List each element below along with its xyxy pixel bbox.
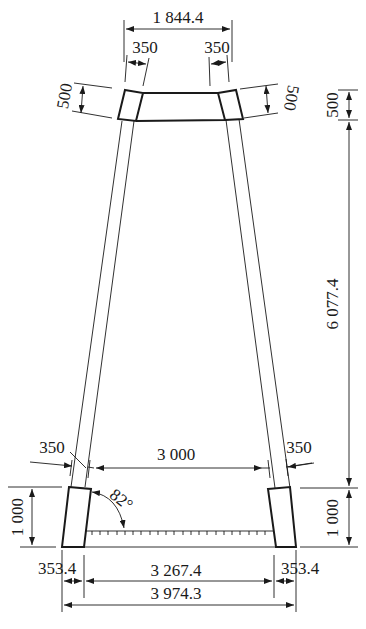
right-leg [226, 119, 290, 488]
left-leg [71, 121, 134, 487]
dim-label-3974: 3 974.3 [151, 584, 202, 603]
dim-label-angle: 82° [106, 485, 136, 515]
dim-label-353-left: 353.4 [38, 559, 77, 578]
dim-left-bottom-height: 1 000 [8, 487, 62, 547]
dim-label-500-right: 500 [323, 92, 342, 118]
dim-label-350-top-left: 350 [132, 38, 158, 57]
dim-label-1000-left: 1 000 [8, 498, 27, 536]
dim-top-right-leg: 350 [204, 38, 230, 86]
dim-label-350-mid-left: 350 [39, 438, 65, 457]
dim-label-353-right: 353.4 [281, 559, 320, 578]
left-foot-block [62, 487, 91, 547]
dim-right-chain: 500 6 077.4 1 000 [300, 90, 358, 547]
dim-top-right-cap: 500 [240, 84, 303, 118]
dim-angle: 82° [92, 485, 137, 528]
dim-label-500-left-cap: 500 [53, 82, 76, 110]
dim-label-1000-right: 1 000 [323, 499, 342, 537]
dim-label-1844: 1 844.4 [153, 8, 205, 27]
dim-label-500-right-cap: 500 [280, 84, 303, 112]
ground-hatch [62, 531, 296, 547]
dim-label-3000: 3 000 [157, 445, 195, 464]
dim-label-350-mid-right: 350 [286, 438, 312, 457]
dim-top-left-leg: 350 [125, 38, 158, 86]
dim-label-3267: 3 267.4 [151, 561, 203, 580]
dim-label-6077: 6 077.4 [323, 278, 342, 330]
top-cap-beam [118, 90, 243, 121]
dim-label-350-top-right: 350 [204, 38, 230, 57]
frame-drawing: 1 844.4 350 350 500 500 500 6 077.4 1 0 [0, 0, 366, 629]
right-foot-block [268, 487, 296, 547]
dim-top-left-cap: 500 [53, 82, 112, 118]
dim-bottom: 353.4 3 267.4 353.4 3 974.3 [38, 550, 320, 612]
